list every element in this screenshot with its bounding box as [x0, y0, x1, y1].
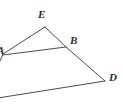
vertex-label-A: A [0, 45, 4, 56]
geometry-figure: A E B D [0, 0, 123, 104]
geometry-canvas [0, 0, 123, 104]
vertex-label-B: B [70, 35, 77, 46]
segment-BD [66, 47, 105, 81]
segment-EB [45, 27, 66, 47]
vertex-label-E: E [38, 9, 45, 20]
segment-A-lower-edge [0, 54, 3, 70]
segment-AE [3, 27, 45, 54]
segment-base-to-D [0, 81, 105, 98]
vertex-label-D: D [109, 72, 117, 83]
